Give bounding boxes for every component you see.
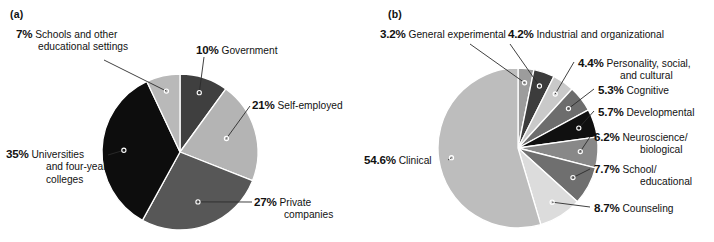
slice-pct-general-experimental: 3.2% xyxy=(380,27,406,40)
slice-name-universities: Universities xyxy=(31,149,84,160)
slice-name-schools-line2: educational settings xyxy=(16,41,128,53)
slice-pct-government: 10% xyxy=(196,43,219,56)
slice-label-cognitive: 5.3% Cognitive xyxy=(598,84,669,97)
slice-name-general-experimental: General experimental xyxy=(408,29,505,40)
slice-name-neuroscience-biological: Neuroscience/ xyxy=(622,132,687,143)
slice-pct-school-educational: 7.7% xyxy=(594,162,620,175)
slice-label-counseling: 8.7% Counseling xyxy=(594,202,673,215)
slice-name-government: Government xyxy=(221,45,277,56)
slice-name-private-companies-line2: companies xyxy=(254,209,333,221)
slice-label-private-companies: 27% Private companies xyxy=(254,196,333,222)
slice-label-school-educational: 7.7% School/ educational xyxy=(594,163,692,189)
slice-name-personality-social-cultural-line2: and cultural xyxy=(578,70,691,82)
slice-pct-counseling: 8.7% xyxy=(594,201,620,214)
slice-pct-personality-social-cultural: 4.4% xyxy=(578,56,604,69)
slice-label-personality-social-cultural: 4.4% Personality, social, and cultural xyxy=(578,57,691,83)
slice-label-self-employed: 21% Self-employed xyxy=(252,99,343,112)
slice-pct-industrial-organizational: 4.2% xyxy=(508,27,534,40)
slice-name-industrial-organizational: Industrial and organizational xyxy=(536,29,663,40)
slice-name-school-educational: School/ xyxy=(622,164,656,175)
slice-label-clinical: 54.6% Clinical xyxy=(364,154,432,167)
slice-name-neuroscience-biological-line2: biological xyxy=(594,144,688,156)
slice-pct-self-employed: 21% xyxy=(252,98,275,111)
panel-b: (b) 3.2% General experimental 4.2% Indus… xyxy=(360,0,714,242)
slice-label-general-experimental: 3.2% General experimental xyxy=(380,28,506,41)
slice-label-government: 10% Government xyxy=(196,44,278,57)
leader-line xyxy=(104,60,166,91)
slice-pct-universities: 35% xyxy=(6,147,29,160)
slice-pct-clinical: 54.6% xyxy=(364,153,396,166)
slice-name-cognitive: Cognitive xyxy=(626,85,668,96)
slice-name-school-educational-line2: educational xyxy=(594,176,692,188)
slice-name-private-companies: Private xyxy=(279,197,311,208)
slice-pct-private-companies: 27% xyxy=(254,195,277,208)
slice-name-developmental: Developmental xyxy=(626,107,694,118)
slice-pct-cognitive: 5.3% xyxy=(598,83,624,96)
slice-label-neuroscience-biological: 6.2% Neuroscience/ biological xyxy=(594,131,688,157)
slice-name-schools: Schools and other xyxy=(35,29,117,40)
slice-name-counseling: Counseling xyxy=(622,203,673,214)
slice-name-personality-social-cultural: Personality, social, xyxy=(606,58,690,69)
slice-name-clinical: Clinical xyxy=(399,155,432,166)
slice-pct-schools: 7% xyxy=(16,27,32,40)
slice-name-universities-line3: colleges xyxy=(6,174,107,186)
panel-a: (a) 7% Schools and other educational set… xyxy=(0,0,360,242)
slice-pct-developmental: 5.7% xyxy=(598,105,624,118)
slice-label-industrial-organizational: 4.2% Industrial and organizational xyxy=(508,28,664,41)
slice-label-developmental: 5.7% Developmental xyxy=(598,106,694,119)
slice-name-universities-line2: and four-year xyxy=(6,161,107,173)
slice-label-schools: 7% Schools and other educational setting… xyxy=(16,28,128,54)
slice-name-self-employed: Self-employed xyxy=(277,100,342,111)
slice-label-universities: 35% Universities and four-year colleges xyxy=(6,148,107,186)
slice-pct-neuroscience-biological: 6.2% xyxy=(594,130,620,143)
